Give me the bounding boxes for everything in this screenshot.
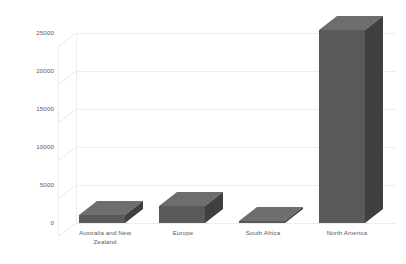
bar-front-face xyxy=(159,206,205,223)
bar-europe-shape xyxy=(159,192,223,232)
x-category-label-australia-and-new-zealand: Australia and New Zealand xyxy=(57,228,153,246)
bars-layer xyxy=(0,0,406,264)
x-category-line1: South Africa xyxy=(246,229,281,236)
x-axis: Australia and New Zealand Europe South A… xyxy=(0,228,406,260)
bar-top-face xyxy=(239,207,303,221)
x-category-label-europe: Europe xyxy=(143,228,223,237)
bar-front-face xyxy=(319,30,365,223)
x-category-label-north-america: North America xyxy=(303,228,391,237)
x-category-line1: North America xyxy=(327,229,368,236)
bar-side-face xyxy=(365,16,383,223)
bar-north-america-shape xyxy=(319,15,383,230)
x-category-label-south-africa: South Africa xyxy=(223,228,303,237)
x-category-line1: Europe xyxy=(173,229,194,236)
bar-australia-and-new-zealand[interactable] xyxy=(79,201,143,231)
x-category-line2: Zealand xyxy=(93,238,116,245)
bar-australia-and-new-zealand-shape xyxy=(79,201,143,231)
bar-front-face xyxy=(239,221,285,223)
bar-front-face xyxy=(79,215,125,223)
bar-europe[interactable] xyxy=(159,192,223,232)
x-category-line1: Australia and New xyxy=(79,229,131,236)
bar-chart: 25000 20000 15000 10000 5000 0 xyxy=(0,0,406,264)
bar-north-america[interactable] xyxy=(319,15,383,230)
